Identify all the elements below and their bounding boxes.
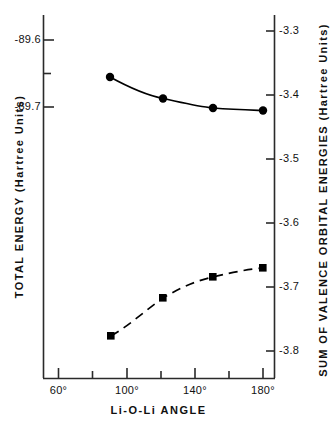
total-energy-line xyxy=(110,77,263,111)
data-point-circle xyxy=(159,94,167,102)
series-valence-orbital-sum xyxy=(107,264,267,340)
bottom-axis-ticks xyxy=(59,368,264,378)
left-axis-ticks xyxy=(44,40,55,107)
right-tick-label: -3.5 xyxy=(279,153,299,164)
axis-spines xyxy=(43,15,275,379)
right-tick-label: -3.4 xyxy=(279,89,299,100)
data-point-circle xyxy=(259,106,267,114)
chart-plot-area xyxy=(0,0,335,425)
valence-sum-line xyxy=(111,268,263,336)
data-point-circle xyxy=(209,104,217,112)
right-tick-label: -3.3 xyxy=(279,25,299,36)
x-axis-title: Li-O-Li ANGLE xyxy=(43,404,274,416)
data-point-circle xyxy=(106,73,114,81)
y-axis-left-title: TOTAL ENERGY (Hartree Units) xyxy=(14,15,25,378)
series-total-energy xyxy=(106,73,267,115)
data-point-square xyxy=(159,294,167,302)
right-tick-label: -3.6 xyxy=(279,217,299,228)
x-tick-label: 100° xyxy=(106,385,148,396)
right-axis-ticks xyxy=(266,31,275,351)
data-point-square xyxy=(209,273,217,281)
x-tick-label: 180° xyxy=(242,385,284,396)
x-tick-label: 140° xyxy=(174,385,216,396)
data-point-square xyxy=(259,264,267,272)
x-tick-label: 60° xyxy=(38,385,79,396)
data-point-square xyxy=(107,332,115,340)
y-axis-right-title: SUM OF VALENCE ORBITAL ENERGIES (Hartree… xyxy=(318,15,329,385)
right-tick-label: -3.7 xyxy=(279,281,299,292)
figure-canvas: -89.6 -89.7 -3.3 -3.4 -3.5 -3.6 -3.7 -3.… xyxy=(0,0,335,425)
right-tick-label: -3.8 xyxy=(279,345,299,356)
